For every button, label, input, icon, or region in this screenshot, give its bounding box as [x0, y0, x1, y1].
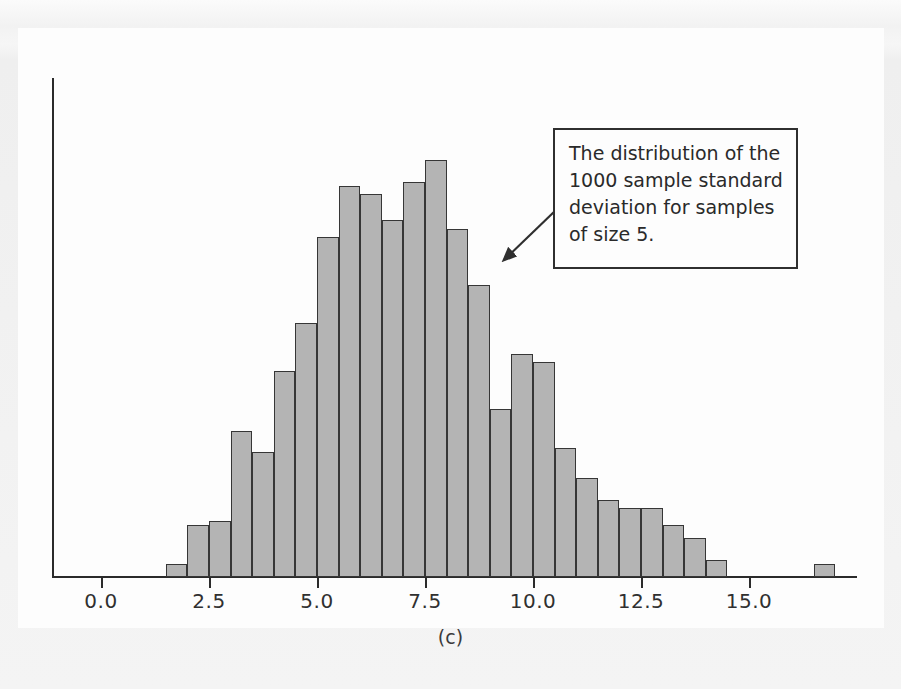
histogram-bar [684, 538, 706, 577]
histogram-bar [663, 525, 685, 577]
x-tick-label: 15.0 [714, 589, 784, 613]
x-tick-label: 0.0 [66, 589, 136, 613]
panel-label: (c) [0, 626, 901, 648]
x-tick-mark [749, 578, 751, 588]
histogram-bar [209, 521, 231, 577]
x-tick-label: 10.0 [498, 589, 568, 613]
histogram-plot: 0.02.55.07.510.012.515.0 [0, 0, 901, 689]
x-tick-mark [101, 578, 103, 588]
x-tick-mark [425, 578, 427, 588]
x-tick-label: 7.5 [390, 589, 460, 613]
histogram-bar [339, 186, 361, 577]
histogram-bar [468, 285, 490, 577]
x-tick-mark [641, 578, 643, 588]
x-tick-label: 2.5 [174, 589, 244, 613]
histogram-bar [447, 229, 469, 577]
histogram-bar [533, 362, 555, 577]
histogram-bar [576, 478, 598, 577]
histogram-bar [274, 371, 296, 577]
histogram-bar [555, 448, 577, 577]
histogram-bar [187, 525, 209, 577]
histogram-bar [641, 508, 663, 577]
x-tick-label: 5.0 [282, 589, 352, 613]
histogram-bar [166, 564, 188, 577]
x-tick-mark [533, 578, 535, 588]
x-tick-mark [317, 578, 319, 588]
histogram-bar [619, 508, 641, 577]
histogram-bar [706, 560, 728, 577]
x-tick-label: 12.5 [606, 589, 676, 613]
y-axis-line [52, 78, 54, 578]
histogram-bar [231, 431, 253, 577]
annotation-text: The distribution of the 1000 sample stan… [569, 140, 784, 248]
x-tick-mark [209, 578, 211, 588]
histogram-bar [598, 500, 620, 577]
figure-root: 0.02.55.07.510.012.515.0 The distributio… [0, 0, 901, 689]
histogram-bar [317, 237, 339, 577]
histogram-bar [490, 409, 512, 577]
histogram-bar [425, 160, 447, 577]
histogram-bar [814, 564, 836, 577]
histogram-bar [403, 182, 425, 577]
histogram-bar [295, 323, 317, 577]
histogram-bar [252, 452, 274, 577]
histogram-bar [382, 220, 404, 577]
annotation-callout: The distribution of the 1000 sample stan… [553, 128, 798, 269]
histogram-bar [511, 354, 533, 578]
histogram-bar [360, 194, 382, 577]
